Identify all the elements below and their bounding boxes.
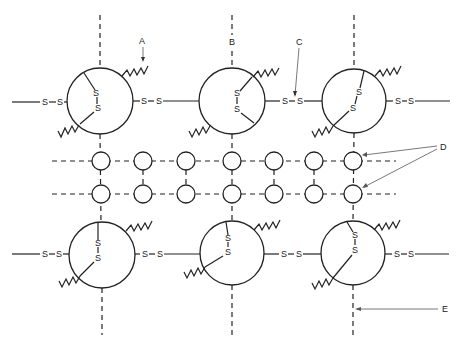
svg-text:S: S — [352, 245, 358, 255]
svg-text:S: S — [282, 96, 288, 106]
label-b-callout: B — [228, 35, 237, 47]
unit-top-middle: S S — [189, 68, 279, 137]
svg-text:E: E — [442, 304, 448, 314]
svg-text:S: S — [225, 233, 231, 243]
label-d-callout: D — [362, 142, 447, 188]
svg-text:S: S — [408, 96, 414, 106]
svg-text:S: S — [157, 249, 163, 259]
label-c-callout: C — [293, 37, 303, 97]
svg-text:S: S — [408, 249, 414, 259]
svg-text:S: S — [350, 103, 356, 113]
svg-text:A: A — [139, 36, 145, 46]
svg-text:S: S — [42, 97, 48, 107]
svg-text:S: S — [356, 87, 362, 97]
unit-bottom-middle: S S — [184, 220, 280, 285]
svg-text:D: D — [440, 142, 447, 152]
svg-text:S: S — [42, 249, 48, 259]
svg-text:C: C — [296, 37, 303, 47]
svg-text:S: S — [93, 88, 99, 98]
svg-text:S: S — [56, 249, 62, 259]
svg-text:B: B — [229, 37, 235, 47]
svg-text:S: S — [234, 104, 240, 114]
lattice-diagram: S S S S S S S S S S S S S S — [0, 0, 462, 340]
svg-text:S: S — [297, 96, 303, 106]
svg-text:S: S — [95, 238, 101, 248]
svg-text:S: S — [57, 97, 63, 107]
svg-text:S: S — [296, 249, 302, 259]
svg-text:S: S — [141, 96, 147, 106]
diagram-canvas: S S S S S S S S S S S S S S — [0, 0, 462, 340]
svg-text:S: S — [156, 96, 162, 106]
svg-text:S: S — [395, 96, 401, 106]
svg-text:S: S — [234, 88, 240, 98]
svg-text:S: S — [394, 249, 400, 259]
svg-text:S: S — [281, 249, 287, 259]
svg-text:S: S — [142, 249, 148, 259]
label-a-callout: A — [139, 36, 145, 62]
svg-text:S: S — [225, 247, 231, 257]
svg-text:S: S — [95, 253, 101, 263]
svg-text:S: S — [352, 230, 358, 240]
svg-text:S: S — [95, 103, 101, 113]
label-e-callout: E — [355, 304, 448, 314]
small-nodes — [92, 152, 362, 203]
